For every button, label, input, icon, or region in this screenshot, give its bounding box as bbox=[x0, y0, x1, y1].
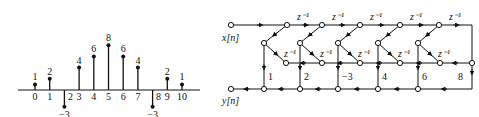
index-label: 4 bbox=[91, 91, 96, 102]
stem-marker bbox=[107, 43, 111, 47]
index-label: 10 bbox=[177, 91, 187, 102]
node bbox=[297, 40, 302, 45]
delay-label: z⁻¹ bbox=[409, 11, 422, 22]
node bbox=[228, 86, 233, 91]
value-label: 8 bbox=[106, 32, 111, 43]
node bbox=[261, 40, 266, 45]
value-label: 2 bbox=[47, 66, 52, 77]
index-label: 7 bbox=[135, 91, 140, 102]
arrow-icon bbox=[428, 52, 431, 55]
node bbox=[469, 60, 474, 65]
node bbox=[261, 86, 266, 91]
node bbox=[228, 22, 233, 27]
stem-marker bbox=[136, 66, 140, 70]
arrow-icon bbox=[309, 33, 312, 36]
value-label: 1 bbox=[180, 71, 185, 82]
stem-marker bbox=[180, 82, 184, 86]
node bbox=[297, 86, 302, 91]
signal-flow-graph: 12−3468z⁻¹z⁻¹z⁻¹z⁻¹z⁻¹z⁻¹z⁻¹z⁻¹z⁻¹z⁻¹x[n… bbox=[221, 11, 475, 106]
index-label: 1 bbox=[47, 91, 52, 102]
value-label: 6 bbox=[91, 43, 96, 54]
node bbox=[319, 22, 324, 27]
arrow-icon bbox=[347, 33, 350, 36]
arrow-icon bbox=[348, 52, 351, 55]
index-label: 9 bbox=[165, 91, 170, 102]
index-label: 6 bbox=[121, 91, 126, 102]
node bbox=[415, 86, 420, 91]
delay-label: z⁻¹ bbox=[369, 11, 382, 22]
stem-plot: 1021−324364856647−3829110 bbox=[18, 32, 200, 117]
coefficient-label: 8 bbox=[458, 71, 463, 82]
coefficient-label: 2 bbox=[304, 71, 309, 82]
node bbox=[436, 22, 441, 27]
output-label: y[n] bbox=[221, 95, 239, 106]
node bbox=[437, 60, 442, 65]
stem-marker bbox=[48, 77, 52, 81]
delay-label: z⁻¹ bbox=[437, 48, 450, 59]
node bbox=[319, 60, 324, 65]
coefficient-label: −3 bbox=[342, 71, 353, 82]
coefficient-label: 4 bbox=[382, 71, 387, 82]
index-label: 5 bbox=[106, 91, 111, 102]
node bbox=[375, 86, 380, 91]
index-label: 0 bbox=[33, 91, 38, 102]
stem-marker bbox=[92, 54, 96, 58]
value-label: 4 bbox=[135, 55, 140, 66]
index-label: 2 bbox=[68, 91, 73, 102]
delay-label: z⁻¹ bbox=[319, 48, 332, 59]
node bbox=[397, 22, 402, 27]
value-label: 4 bbox=[77, 55, 82, 66]
coefficient-label: 1 bbox=[268, 71, 273, 82]
value-label: 2 bbox=[165, 66, 170, 77]
coefficient-label: 6 bbox=[422, 71, 427, 82]
value-label: 6 bbox=[121, 43, 126, 54]
delay-label: z⁻¹ bbox=[331, 11, 344, 22]
arrow-icon bbox=[310, 52, 313, 55]
node bbox=[415, 40, 420, 45]
figure: 1021−324364856647−3829110 12−3468z⁻¹z⁻¹z… bbox=[0, 0, 479, 117]
node bbox=[357, 60, 362, 65]
stem-marker bbox=[121, 54, 125, 58]
delay-label: z⁻¹ bbox=[397, 48, 410, 59]
index-label: 8 bbox=[156, 91, 161, 102]
delay-label: z⁻¹ bbox=[296, 11, 309, 22]
input-label: x[n] bbox=[221, 32, 239, 43]
delay-label: z⁻¹ bbox=[283, 48, 296, 59]
arrow-icon bbox=[274, 52, 277, 55]
node bbox=[397, 60, 402, 65]
node bbox=[283, 60, 288, 65]
node bbox=[357, 22, 362, 27]
value-label: −3 bbox=[59, 109, 70, 117]
arrow-icon bbox=[388, 52, 391, 55]
node bbox=[335, 86, 340, 91]
stem-marker bbox=[33, 82, 37, 86]
node bbox=[335, 40, 340, 45]
delay-label: z⁻¹ bbox=[357, 48, 370, 59]
index-label: 3 bbox=[77, 91, 82, 102]
value-label: −3 bbox=[147, 109, 158, 117]
delay-label: z⁻¹ bbox=[448, 11, 461, 22]
node bbox=[375, 40, 380, 45]
arrow-icon bbox=[427, 33, 430, 36]
arrow-icon bbox=[274, 33, 277, 35]
stem-marker bbox=[77, 66, 81, 70]
node bbox=[284, 22, 289, 27]
value-label: 1 bbox=[33, 71, 38, 82]
stem-marker bbox=[165, 77, 169, 81]
arrow-icon bbox=[387, 33, 390, 36]
